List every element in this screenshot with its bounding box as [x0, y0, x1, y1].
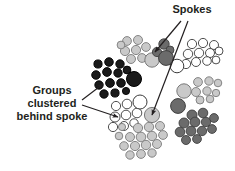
- group-node: [120, 142, 129, 151]
- group-node: [183, 49, 192, 58]
- groups-label-line: behind spoke: [17, 110, 88, 122]
- group-node: [196, 96, 204, 104]
- group-node: [141, 140, 150, 149]
- group-node: [203, 57, 212, 66]
- group-node: [153, 140, 162, 149]
- group-node: [117, 41, 125, 49]
- group-node: [193, 135, 202, 144]
- group-node: [214, 79, 222, 87]
- group-node: [105, 58, 114, 67]
- group-node: [212, 56, 220, 64]
- group-node: [215, 47, 223, 55]
- group-node: [156, 122, 165, 131]
- group-node: [127, 55, 136, 64]
- group-node: [208, 125, 217, 134]
- spoke-node: [171, 99, 186, 114]
- group-node: [212, 89, 219, 96]
- group-node: [175, 127, 185, 137]
- diagram-canvas: Spokes Groupsclusteredbehind spoke: [0, 0, 235, 171]
- group-node: [111, 101, 120, 110]
- group-node: [134, 36, 143, 45]
- group-node: [122, 87, 129, 94]
- group-node: [148, 149, 156, 157]
- group-node: [121, 110, 131, 120]
- group-node: [210, 114, 219, 123]
- groups-label-line: clustered: [28, 97, 77, 109]
- group-node: [92, 71, 101, 80]
- group-node: [132, 108, 142, 118]
- group-node: [131, 45, 140, 54]
- spoke-node: [127, 72, 142, 87]
- group-node: [122, 99, 132, 109]
- group-node: [205, 77, 213, 85]
- group-node: [144, 122, 153, 131]
- group-node: [192, 88, 201, 97]
- group-node: [133, 123, 142, 132]
- group-node: [118, 123, 125, 130]
- group-node: [142, 43, 151, 52]
- groups-label-line: Groups: [32, 84, 71, 96]
- clusters-layer: [92, 36, 223, 160]
- cluster-black-cluster: [92, 58, 142, 99]
- cluster-spoke-diagram: Spokes Groupsclusteredbehind spoke: [0, 0, 235, 171]
- group-node: [198, 38, 207, 47]
- group-node: [194, 48, 203, 57]
- group-node: [110, 112, 120, 122]
- group-node: [192, 58, 201, 67]
- group-node: [147, 131, 156, 140]
- group-node: [114, 69, 122, 77]
- group-node: [187, 39, 196, 48]
- cluster-light-gray-cluster-right: [177, 77, 222, 104]
- group-node: [106, 79, 115, 88]
- groups-clustered-behind-spoke-label: Groupsclusteredbehind spoke: [17, 84, 88, 122]
- group-node: [182, 136, 191, 145]
- group-node: [130, 141, 139, 150]
- group-node: [194, 78, 203, 87]
- group-node: [103, 68, 112, 77]
- group-node: [108, 122, 117, 131]
- spoke-node: [177, 84, 191, 98]
- cluster-white-cluster-right: [170, 38, 223, 72]
- group-node: [115, 132, 123, 140]
- group-node: [126, 133, 135, 142]
- group-node: [186, 126, 196, 136]
- group-node: [111, 89, 119, 97]
- group-node: [94, 60, 102, 68]
- spokes-label: Spokes: [172, 3, 211, 15]
- group-node: [203, 87, 211, 95]
- spoke-node: [133, 95, 147, 109]
- group-node: [126, 151, 134, 159]
- group-node: [206, 49, 215, 58]
- group-node: [117, 79, 126, 88]
- group-node: [137, 150, 146, 159]
- group-node: [197, 126, 206, 135]
- group-node: [206, 95, 214, 103]
- group-node: [100, 90, 108, 98]
- group-node: [116, 60, 124, 68]
- group-node: [159, 131, 168, 140]
- group-node: [190, 117, 200, 127]
- cluster-dark-gray-cluster-bottom: [171, 99, 219, 145]
- group-node: [198, 108, 208, 118]
- group-node: [179, 118, 189, 128]
